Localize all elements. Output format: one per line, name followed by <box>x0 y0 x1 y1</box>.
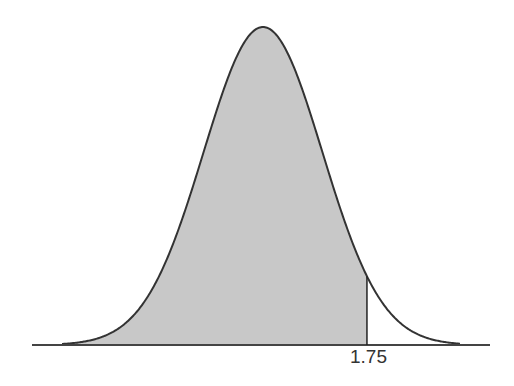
shaded-area <box>62 27 367 345</box>
z-value-label: 1.75 <box>350 346 387 368</box>
normal-distribution-chart <box>0 0 514 386</box>
